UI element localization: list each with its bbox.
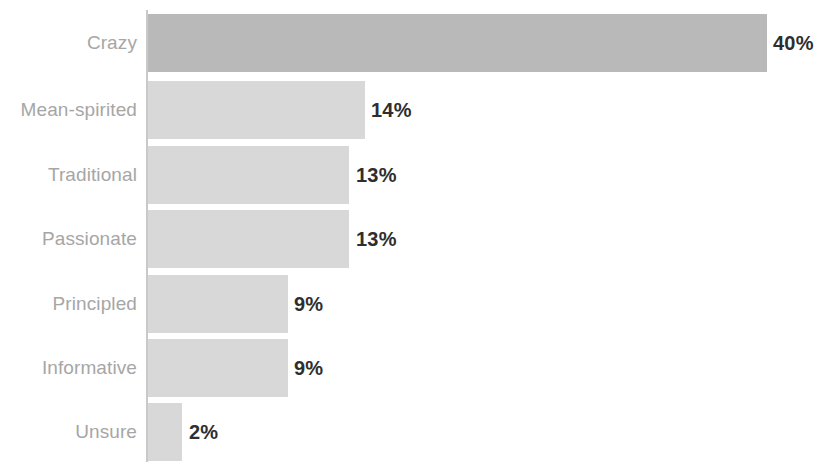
value-label-passionate: 13% xyxy=(356,210,397,268)
bar-row: Crazy 40% xyxy=(0,14,814,72)
bar-row: Mean-spirited 14% xyxy=(0,81,814,139)
value-label-principled: 9% xyxy=(294,275,323,333)
bar-traditional xyxy=(148,146,349,204)
category-label-principled: Principled xyxy=(0,275,137,333)
bar-crazy xyxy=(148,14,767,72)
value-label-traditional: 13% xyxy=(356,146,397,204)
bar-principled xyxy=(148,275,288,333)
bar-informative xyxy=(148,339,288,397)
bar-chart: Crazy 40% Mean-spirited 14% Traditional … xyxy=(0,0,814,474)
category-label-informative: Informative xyxy=(0,339,137,397)
bar-passionate xyxy=(148,210,349,268)
bar-row: Principled 9% xyxy=(0,275,814,333)
category-label-traditional: Traditional xyxy=(0,146,137,204)
category-label-unsure: Unsure xyxy=(0,403,137,461)
category-label-crazy: Crazy xyxy=(0,14,137,72)
category-label-mean-spirited: Mean-spirited xyxy=(0,81,137,139)
bar-row: Passionate 13% xyxy=(0,210,814,268)
bar-mean-spirited xyxy=(148,81,365,139)
category-label-passionate: Passionate xyxy=(0,210,137,268)
value-label-unsure: 2% xyxy=(189,403,218,461)
bar-row: Unsure 2% xyxy=(0,403,814,461)
bar-row: Informative 9% xyxy=(0,339,814,397)
value-label-mean-spirited: 14% xyxy=(371,81,412,139)
bar-row: Traditional 13% xyxy=(0,146,814,204)
value-label-informative: 9% xyxy=(294,339,323,397)
bar-unsure xyxy=(148,403,182,461)
value-label-crazy: 40% xyxy=(773,14,814,72)
